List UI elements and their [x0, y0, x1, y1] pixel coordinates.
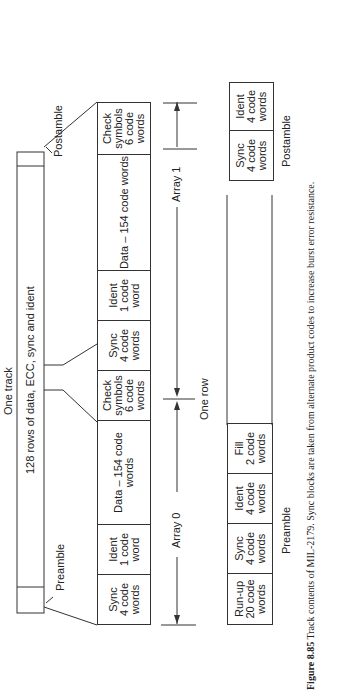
- postamble-label: Postamble: [280, 115, 292, 167]
- preamble-cell-fill: Fill 2 code words: [227, 423, 273, 474]
- row-cell-data-a: Data – 154 code words: [97, 420, 151, 525]
- row-cell-check-b: Check symbols 6 code words: [97, 102, 151, 155]
- preamble-cell-ident: Ident 4 code words: [227, 473, 273, 524]
- preamble-label: Preamble: [280, 507, 292, 554]
- figure-caption-text: Track contents of MIL-2179. Sync blocks …: [305, 182, 316, 642]
- figure-caption: Figure 8.85 Track contents of MIL-2179. …: [305, 182, 316, 690]
- one-track-label: One track: [2, 367, 14, 415]
- preamble-cell-sync: Sync 4 code words: [227, 523, 273, 574]
- track-preamble-label: Preamble: [54, 544, 66, 591]
- track-postamble-label: Postamble: [52, 105, 64, 157]
- row-cell-data-b: Data – 154 code words: [97, 154, 151, 271]
- row-cell-check-a: Check symbols 6 code words: [97, 370, 151, 421]
- array-1-label: Array 1: [170, 167, 182, 202]
- row-cell-sync-a: Sync 4 code words: [97, 574, 151, 625]
- postamble-cell-sync: Sync 4 code words: [229, 130, 274, 181]
- row-cell-ident-b: Ident 1 code word: [97, 270, 151, 321]
- figure-number: Figure 8.85: [305, 642, 316, 690]
- preamble-cell-runup: Run-up 20 code words: [227, 573, 273, 625]
- row-cell-sync-b: Sync 4 code words: [97, 320, 151, 371]
- track-main-label: 128 rows of data, ECC, sync and ident: [24, 286, 36, 474]
- postamble-cell-ident: Ident 4 code words: [229, 82, 274, 131]
- row-cell-ident-a: Ident 1 code word: [97, 524, 151, 575]
- one-row-label: One row: [198, 378, 210, 420]
- array-0-label: Array 0: [170, 513, 182, 548]
